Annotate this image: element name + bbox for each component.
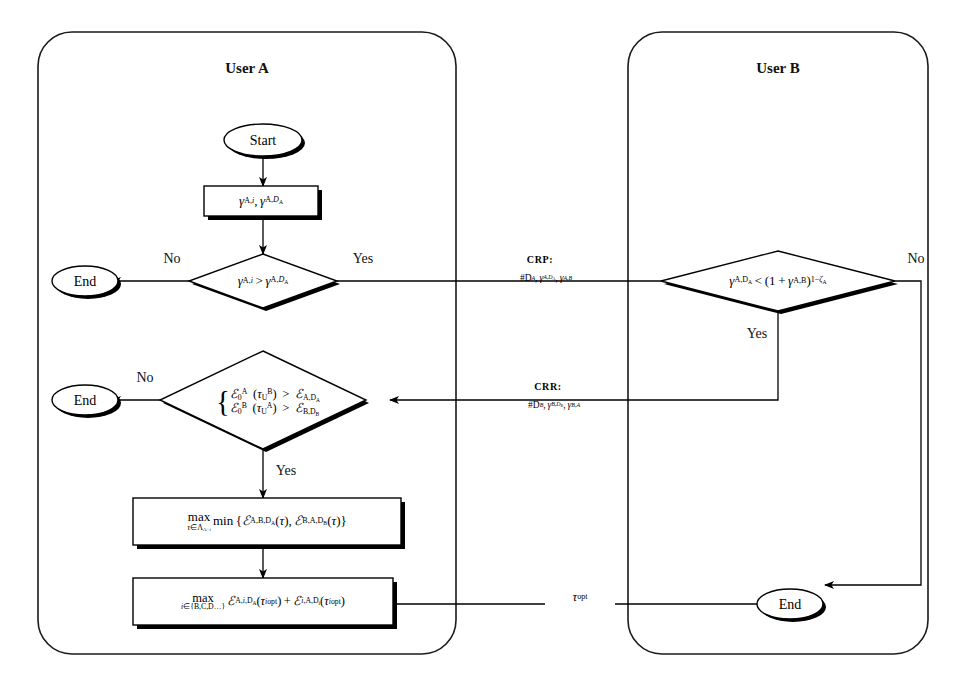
message-crr-payload: #DB, γB,DB, γB,A [474, 395, 634, 415]
userb-end-label: End [779, 597, 802, 612]
message-crp-payload: #DA, γA,DA, γA,B [466, 268, 626, 288]
userb-decision-no-label: No [907, 251, 924, 266]
end1-label: End [74, 274, 97, 289]
lane-title-user-b: User B [756, 60, 799, 76]
userb-decision-yes-label: Yes [747, 326, 767, 341]
userb-decision-content: γA,DA < (1 + γA,B)1−ζA [668, 265, 888, 297]
decision1-yes-label: Yes [353, 251, 373, 266]
decision1-content: γA,i > γA,DA [193, 266, 333, 296]
message-crp-title: CRP: [527, 254, 553, 265]
maxmin-box-content: max τ∈ΛA+i min { ℰA,B,DA(τ), ℰB,A,DB(τ)} [133, 498, 401, 545]
decision2-yes-label: Yes [276, 463, 296, 478]
maxsum-box-content: max i∈{B,C,D…} ℰA,i,DA(τiopt) + ℰi,A,Di(… [133, 578, 393, 625]
message-crr-title: CRR: [534, 381, 561, 392]
lane-title-user-a: User A [225, 60, 269, 76]
params-box-content: γA,i, γA,DA [204, 186, 318, 216]
decision2-no-label: No [136, 370, 153, 385]
flowchart-canvas: User A User B Start γA,i, [0, 0, 965, 689]
end2-label: End [74, 393, 97, 408]
flowchart-figure: User A User B Start γA,i, [0, 0, 965, 689]
edge-label-tau-opt: τopt [545, 586, 615, 608]
start-label: Start [250, 133, 277, 148]
decision2-content: { ℰ0A (τUB) > ℰA,DA ℰ0B (τUA) > ℰB,DB [178, 372, 358, 430]
decision1-no-label: No [163, 251, 180, 266]
